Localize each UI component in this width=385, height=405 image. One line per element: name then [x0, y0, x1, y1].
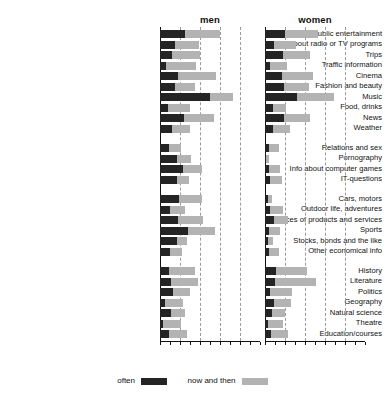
- bar-segment-now-and-then: [268, 320, 283, 328]
- bar-segment-now-and-then: [178, 216, 203, 224]
- bar-row: [265, 62, 365, 70]
- bar-row: [265, 206, 365, 214]
- bar-segment-often: [265, 114, 284, 122]
- bar-row: [265, 104, 365, 112]
- bar-row: [160, 237, 260, 245]
- bar-row: [265, 176, 365, 184]
- bar-segment-now-and-then: [177, 176, 189, 184]
- bar-segment-often: [265, 72, 282, 80]
- bar-segment-now-and-then: [269, 144, 279, 152]
- x-axis-tick: [365, 342, 366, 345]
- x-axis-tick: [160, 342, 161, 345]
- x-axis-tick: [305, 342, 306, 345]
- bar-segment-now-and-then: [285, 30, 318, 38]
- bar-segment-often: [160, 278, 171, 286]
- x-axis-tick: [315, 342, 316, 345]
- x-axis-tick: [275, 342, 276, 345]
- bar-segment-often: [160, 176, 177, 184]
- bar-segment-often: [265, 299, 274, 307]
- bar-segment-often: [160, 83, 175, 91]
- bar-row: [265, 72, 365, 80]
- x-axis-tick: [335, 342, 336, 345]
- bar-row: [265, 155, 365, 163]
- bar-segment-now-and-then: [169, 144, 181, 152]
- bar-row: [160, 176, 260, 184]
- bar-segment-now-and-then: [274, 41, 296, 49]
- bar-segment-now-and-then: [274, 299, 291, 307]
- legend: often now and then: [0, 376, 385, 386]
- x-axis-tick: [240, 342, 241, 345]
- bar-segment-now-and-then: [283, 51, 310, 59]
- bar-row: [265, 93, 365, 101]
- bar-row: [265, 165, 365, 173]
- bar-segment-now-and-then: [273, 125, 290, 133]
- bar-row: [265, 51, 365, 59]
- bar-row: [265, 114, 365, 122]
- bar-row: [160, 93, 260, 101]
- bar-segment-now-and-then: [269, 165, 280, 173]
- bar-segment-now-and-then: [169, 330, 187, 338]
- bar-segment-often: [160, 51, 172, 59]
- legend-swatch-now-and-then: [242, 378, 268, 385]
- bar-segment-now-and-then: [178, 72, 216, 80]
- legend-label-now-and-then: now and then: [187, 377, 235, 386]
- bar-segment-often: [265, 309, 272, 317]
- bar-segment-now-and-then: [188, 227, 215, 235]
- bar-segment-now-and-then: [172, 51, 200, 59]
- x-axis-tick: [285, 342, 286, 345]
- bar-segment-often: [265, 30, 285, 38]
- bar-row: [160, 114, 260, 122]
- x-axis-tick: [200, 342, 201, 345]
- bar-segment-often: [160, 309, 171, 317]
- bar-segment-often: [160, 330, 169, 338]
- bar-row: [265, 237, 365, 245]
- bar-segment-often: [265, 51, 283, 59]
- bar-row: [265, 288, 365, 296]
- bar-segment-now-and-then: [270, 206, 283, 214]
- x-axis-tick: [260, 342, 261, 345]
- bar-segment-now-and-then: [268, 195, 272, 203]
- panel-men: [160, 27, 260, 341]
- bar-segment-now-and-then: [210, 93, 233, 101]
- bar-segment-now-and-then: [165, 299, 183, 307]
- bar-segment-now-and-then: [270, 62, 287, 70]
- x-axis-tick: [345, 342, 346, 345]
- bar-segment-often: [160, 248, 170, 256]
- bar-row: [265, 41, 365, 49]
- bar-row: [265, 248, 365, 256]
- bar-segment-now-and-then: [169, 267, 195, 275]
- plot-area: Public entertainmentInfo about radio or …: [0, 27, 385, 347]
- bar-segment-often: [160, 144, 169, 152]
- bar-segment-often: [160, 227, 188, 235]
- bar-segment-now-and-then: [297, 93, 334, 101]
- bar-segment-now-and-then: [273, 104, 286, 112]
- bar-segment-now-and-then: [170, 248, 182, 256]
- bar-row: [160, 125, 260, 133]
- bar-row: [265, 330, 365, 338]
- bar-row: [265, 83, 365, 91]
- x-axis-tick: [250, 342, 251, 345]
- interest-topics-stacked-bar-chart: men women Public entertainmentInfo about…: [0, 0, 385, 405]
- x-axis-tick: [190, 342, 191, 345]
- bar-row: [160, 83, 260, 91]
- bar-segment-now-and-then: [282, 72, 313, 80]
- bar-row: [160, 206, 260, 214]
- bar-row: [265, 30, 365, 38]
- bar-row: [265, 227, 365, 235]
- bar-segment-often: [265, 83, 284, 91]
- bar-row: [160, 309, 260, 317]
- x-axis-tick: [220, 342, 221, 345]
- bar-segment-now-and-then: [271, 330, 288, 338]
- bar-row: [160, 30, 260, 38]
- bar-segment-now-and-then: [269, 248, 279, 256]
- bar-row: [265, 267, 365, 275]
- bar-segment-now-and-then: [269, 227, 280, 235]
- bar-segment-now-and-then: [270, 288, 292, 296]
- bar-segment-often: [160, 30, 185, 38]
- x-axis-tick: [180, 342, 181, 345]
- bar-segment-often: [160, 216, 178, 224]
- bar-row: [160, 51, 260, 59]
- bar-segment-often: [160, 104, 168, 112]
- x-axis-tick: [210, 342, 211, 345]
- bar-row: [160, 144, 260, 152]
